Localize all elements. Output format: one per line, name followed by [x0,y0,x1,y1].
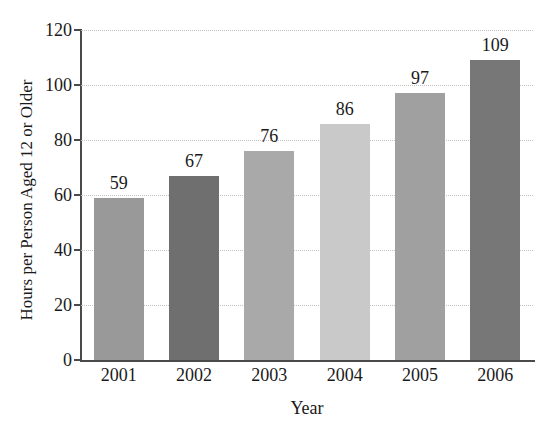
y-axis-tick [74,84,81,86]
bar [169,176,219,360]
bar-chart: Hours per Person Aged 12 or Older 596776… [0,0,543,430]
gridline [81,250,533,251]
y-axis-tick [74,194,81,196]
plot-area: 5967768697109 [81,30,533,360]
gridline [81,195,533,196]
x-axis-line [80,360,535,362]
y-axis-tick-label: 120 [26,21,72,39]
y-axis-tick-label: 80 [26,131,72,149]
y-axis-tick-label: 100 [26,76,72,94]
y-axis-tick-label: 60 [26,186,72,204]
bar [320,124,370,361]
x-axis-tick-label: 2002 [154,366,234,384]
bar-value-label: 59 [79,174,159,192]
x-axis-tick-label: 2006 [455,366,535,384]
bar-value-label: 76 [229,127,309,145]
y-axis-tick-label: 40 [26,241,72,259]
x-axis-tick-label: 2004 [305,366,385,384]
bar-value-label: 97 [380,69,460,87]
y-axis-tick [74,139,81,141]
y-axis-tick-label: 20 [26,296,72,314]
y-axis-tick [74,29,81,31]
bar-value-label: 86 [305,100,385,118]
bar-value-label: 67 [154,152,234,170]
x-axis-title: Year [81,398,533,419]
y-axis-tick [74,304,81,306]
gridline [81,305,533,306]
bar-value-label: 109 [455,36,535,54]
gridline [81,30,533,31]
bar [470,60,520,360]
bar [94,198,144,360]
cropped-chart-title [110,0,440,6]
bar [244,151,294,360]
x-axis-tick-label: 2005 [380,366,460,384]
gridline [81,85,533,86]
x-axis-tick-label: 2003 [229,366,309,384]
x-axis-tick-label: 2001 [79,366,159,384]
y-axis-tick [74,359,81,361]
y-axis-tick [74,249,81,251]
y-axis-tick-label: 0 [26,351,72,369]
bar [395,93,445,360]
